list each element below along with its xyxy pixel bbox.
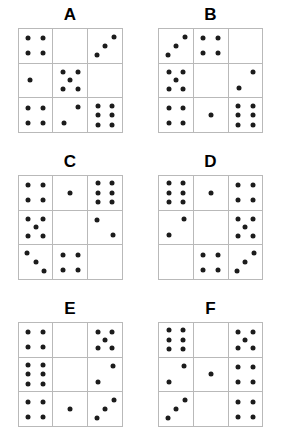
dot xyxy=(216,252,221,257)
dot xyxy=(26,36,31,41)
dot xyxy=(76,105,81,110)
dot xyxy=(96,379,101,384)
dot xyxy=(68,407,73,412)
dot xyxy=(236,399,241,404)
dot xyxy=(182,398,187,403)
dot xyxy=(216,36,221,41)
dot xyxy=(40,381,45,386)
dot xyxy=(166,70,171,75)
dot xyxy=(61,120,66,125)
grid-cell xyxy=(229,245,264,280)
dot xyxy=(26,51,31,56)
dot xyxy=(95,345,100,350)
grid-cell xyxy=(194,29,229,64)
dot xyxy=(40,51,45,56)
dot xyxy=(181,86,186,91)
dot xyxy=(75,70,80,75)
grid-cell xyxy=(19,211,54,246)
panel-f: F xyxy=(141,294,282,441)
grid-cell xyxy=(88,323,123,358)
grid-cell xyxy=(88,98,123,133)
dot xyxy=(110,364,115,369)
dot xyxy=(250,329,255,334)
dot xyxy=(250,233,255,238)
grid-cell xyxy=(194,245,229,280)
dot xyxy=(40,36,45,41)
grid-cell xyxy=(159,211,194,246)
grid-cell xyxy=(194,64,229,99)
dot xyxy=(181,190,186,195)
dot xyxy=(236,379,241,384)
dot xyxy=(182,35,187,40)
dot xyxy=(236,122,241,127)
dot xyxy=(40,345,45,350)
dot xyxy=(26,372,31,377)
dot xyxy=(167,379,172,384)
dot xyxy=(75,267,80,272)
panel-e: E xyxy=(0,294,141,441)
dot xyxy=(40,399,45,404)
dot xyxy=(201,267,206,272)
dot-grid xyxy=(18,175,123,280)
dot xyxy=(110,232,115,237)
panel-d: D xyxy=(141,147,282,294)
dot xyxy=(40,330,45,335)
dot xyxy=(250,379,255,384)
dot xyxy=(235,268,240,273)
dot xyxy=(60,70,65,75)
dot xyxy=(208,190,213,195)
grid-cell xyxy=(53,64,88,99)
dot xyxy=(95,329,100,334)
grid-cell xyxy=(194,98,229,133)
grid-cell xyxy=(194,358,229,393)
dot xyxy=(110,181,115,186)
dot xyxy=(26,363,31,368)
dot xyxy=(174,407,179,412)
dot xyxy=(216,51,221,56)
grid-cell xyxy=(19,323,54,358)
dot xyxy=(110,122,115,127)
dot xyxy=(236,103,241,108)
dot xyxy=(110,103,115,108)
dot xyxy=(236,414,241,419)
dot xyxy=(26,217,31,222)
dot xyxy=(250,365,255,370)
grid-cell xyxy=(88,64,123,99)
grid-cell xyxy=(229,323,264,358)
grid-cell xyxy=(19,176,54,211)
panel-a: A xyxy=(0,0,141,147)
dot xyxy=(95,103,100,108)
dot xyxy=(42,268,47,273)
dot xyxy=(111,35,116,40)
dot xyxy=(24,251,29,256)
dot xyxy=(201,51,206,56)
dot xyxy=(40,233,45,238)
dot xyxy=(26,345,31,350)
dot-grid xyxy=(158,322,263,427)
dot xyxy=(236,85,241,90)
grid-cell xyxy=(88,176,123,211)
dot xyxy=(236,198,241,203)
dot xyxy=(26,399,31,404)
dot xyxy=(181,200,186,205)
dot xyxy=(75,252,80,257)
dot xyxy=(167,232,172,237)
dot xyxy=(251,70,256,75)
dot xyxy=(26,120,31,125)
dot xyxy=(166,337,171,342)
dot xyxy=(236,217,241,222)
dot xyxy=(174,78,179,83)
dot xyxy=(40,372,45,377)
grid-cell xyxy=(159,176,194,211)
dot xyxy=(181,347,186,352)
dot xyxy=(95,122,100,127)
dot xyxy=(216,267,221,272)
dot xyxy=(26,183,31,188)
dot xyxy=(95,200,100,205)
dot xyxy=(208,113,213,118)
dot xyxy=(40,120,45,125)
dot xyxy=(26,233,31,238)
dot xyxy=(250,103,255,108)
dot-grid xyxy=(158,28,263,133)
grid-cell xyxy=(53,392,88,427)
